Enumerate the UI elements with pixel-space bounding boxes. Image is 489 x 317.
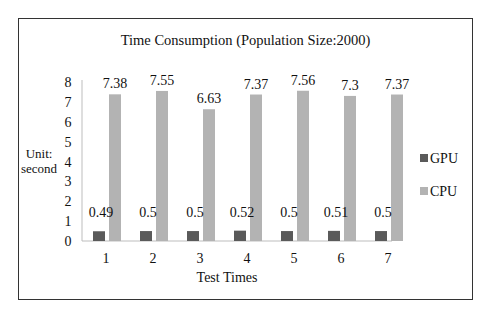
cpu-data-label: 7.37: [385, 77, 410, 92]
gpu-data-label: 0.5: [280, 205, 298, 220]
legend-label-cpu: CPU: [430, 184, 457, 199]
cpu-bar: [391, 95, 403, 241]
cpu-bar: [297, 91, 309, 241]
gpu-data-label: 0.49: [89, 205, 114, 220]
y-tick-label: 4: [65, 155, 72, 170]
gpu-bar: [375, 231, 387, 241]
y-tick-label: 2: [65, 194, 72, 209]
y-tick-label: 1: [65, 214, 72, 229]
gpu-bar: [281, 231, 293, 241]
x-tick-label: 2: [150, 251, 157, 266]
x-tick-label: 4: [244, 251, 251, 266]
cpu-bar: [203, 109, 215, 241]
legend-swatch-cpu: [420, 187, 428, 195]
cpu-data-label: 7.38: [103, 76, 128, 91]
legend-swatch-gpu: [420, 154, 428, 162]
x-tick-label: 7: [385, 251, 392, 266]
gpu-bar: [140, 231, 152, 241]
x-tick-label: 6: [338, 251, 345, 266]
gpu-bar: [234, 231, 246, 241]
y-tick-label: 0: [65, 234, 72, 249]
y-tick-label: 3: [65, 174, 72, 189]
gpu-bar: [93, 231, 105, 241]
y-tick-label: 5: [65, 135, 72, 150]
cpu-data-label: 7.37: [244, 77, 269, 92]
legend-label-gpu: GPU: [430, 151, 458, 166]
cpu-data-label: 7.55: [150, 73, 175, 88]
gpu-bar: [328, 231, 340, 241]
gpu-data-label: 0.51: [324, 205, 349, 220]
y-tick-label: 8: [65, 75, 72, 90]
y-axis-label: second: [21, 161, 58, 176]
x-tick-label: 3: [197, 251, 204, 266]
bar-chart: 012345678Unit:second0.497.3810.57.5520.5…: [0, 0, 489, 317]
cpu-bar: [156, 91, 168, 241]
cpu-data-label: 6.63: [197, 91, 222, 106]
y-tick-label: 6: [65, 115, 72, 130]
y-tick-label: 7: [65, 95, 72, 110]
gpu-data-label: 0.5: [186, 205, 204, 220]
cpu-data-label: 7.3: [341, 78, 359, 93]
x-tick-label: 1: [103, 251, 110, 266]
x-tick-label: 5: [291, 251, 298, 266]
gpu-data-label: 0.52: [230, 205, 255, 220]
cpu-data-label: 7.56: [291, 73, 316, 88]
x-axis-label: Test Times: [197, 270, 258, 285]
gpu-data-label: 0.5: [139, 205, 157, 220]
gpu-bar: [187, 231, 199, 241]
y-axis-label: Unit:: [26, 146, 53, 161]
gpu-data-label: 0.5: [374, 205, 392, 220]
